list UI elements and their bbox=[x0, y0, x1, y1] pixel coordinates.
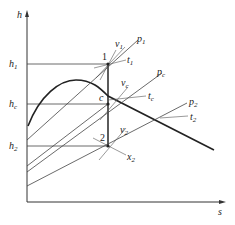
point-2-label: 2 bbox=[100, 132, 105, 143]
state-point-2 bbox=[106, 144, 109, 147]
v1-label: v1 bbox=[115, 38, 123, 51]
y-axis-arrow-icon bbox=[25, 10, 29, 17]
isotherm-tc bbox=[108, 96, 146, 100]
axes bbox=[27, 14, 222, 202]
vc-label: vc bbox=[121, 77, 129, 90]
h1-label: h1 bbox=[9, 58, 18, 71]
x2-label: x2 bbox=[126, 151, 135, 164]
p2-label: p2 bbox=[188, 96, 198, 109]
pc-label: pc bbox=[156, 66, 166, 79]
p1-label: p1 bbox=[136, 33, 146, 46]
y-axis-label: h bbox=[17, 9, 22, 20]
h2-label: h2 bbox=[9, 140, 18, 153]
isotherm-t2 bbox=[160, 116, 188, 118]
point-c-label: c bbox=[99, 92, 104, 103]
state-point-c bbox=[106, 102, 109, 105]
t2-label: t2 bbox=[190, 111, 197, 124]
x-axis-arrow-icon bbox=[219, 200, 226, 204]
hc-label: hc bbox=[9, 98, 18, 111]
hs-diagram: h s h1 hc h2 1 c 2 p1 v1 bbox=[0, 0, 235, 225]
isochore-v1 bbox=[96, 47, 125, 78]
tc-label: tc bbox=[148, 90, 155, 103]
point-1-label: 1 bbox=[102, 51, 107, 62]
state-point-1 bbox=[106, 62, 109, 65]
x-axis-label: s bbox=[218, 206, 222, 217]
isobar-pc bbox=[27, 73, 162, 172]
saturation-curve bbox=[28, 80, 214, 150]
isobar-p2 bbox=[27, 103, 187, 186]
t1-label: t1 bbox=[127, 54, 133, 67]
v2-label: v2 bbox=[120, 124, 128, 137]
isobar-lower bbox=[27, 104, 108, 166]
